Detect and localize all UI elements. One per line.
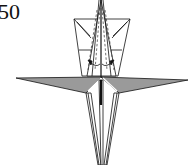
- origami-diagram: [0, 0, 190, 165]
- lower-legs: [86, 80, 119, 165]
- right-wing: [101, 77, 188, 93]
